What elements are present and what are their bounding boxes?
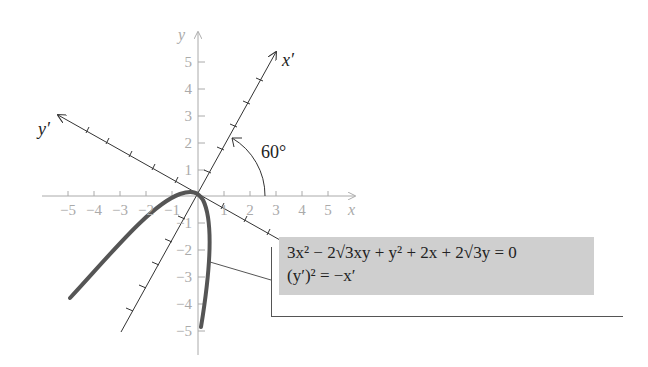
svg-text:−1: −1 — [176, 215, 192, 231]
rotated-equation: (y′)² = −x′ — [287, 266, 356, 286]
svg-text:4: 4 — [185, 81, 193, 97]
svg-text:3: 3 — [272, 202, 280, 218]
svg-text:2: 2 — [246, 202, 254, 218]
svg-text:5: 5 — [185, 54, 193, 70]
x-tick-labels: −5 −4 −3 −2 −1 1 2 3 4 5 — [60, 202, 332, 218]
y-prime-label: y′ — [36, 119, 51, 139]
equation-frame-left — [271, 247, 272, 317]
leader-line — [210, 262, 271, 280]
equation-box: 3x² − 2√3xy + y² + 2x + 2√3y = 0 (y′)² =… — [279, 237, 594, 295]
svg-text:2: 2 — [185, 135, 193, 151]
svg-text:−2: −2 — [176, 242, 192, 258]
svg-text:−2: −2 — [138, 202, 154, 218]
svg-text:3: 3 — [185, 108, 193, 124]
x-axis-label: x — [347, 201, 355, 218]
general-equation: 3x² − 2√3xy + y² + 2x + 2√3y = 0 — [287, 243, 517, 263]
equation-frame-bottom — [271, 316, 623, 317]
y-axis-label: y — [176, 26, 186, 44]
angle-label: 60° — [261, 142, 286, 162]
svg-text:−3: −3 — [176, 269, 192, 285]
y-prime-axis — [58, 115, 280, 240]
rotated-axes-diagram: x y x′ y′ 60° −5 −4 −3 −2 −1 1 2 3 4 5 5… — [0, 0, 648, 367]
svg-text:4: 4 — [298, 202, 306, 218]
svg-text:−5: −5 — [60, 202, 76, 218]
svg-text:1: 1 — [220, 202, 228, 218]
svg-text:−3: −3 — [112, 202, 128, 218]
svg-text:−4: −4 — [86, 202, 102, 218]
svg-text:−5: −5 — [176, 323, 192, 339]
svg-text:1: 1 — [185, 162, 193, 178]
svg-text:5: 5 — [324, 202, 332, 218]
svg-text:−4: −4 — [176, 296, 192, 312]
x-prime-label: x′ — [281, 50, 295, 70]
